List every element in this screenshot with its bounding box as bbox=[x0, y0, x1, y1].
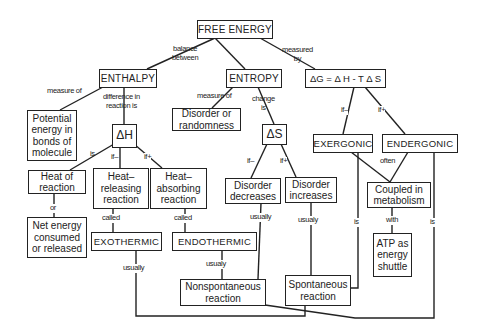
node-entropy: ENTROPY bbox=[226, 69, 282, 88]
label-change-is: change is bbox=[252, 95, 275, 112]
label-increases-usually: usualy bbox=[298, 216, 318, 225]
label-with: with bbox=[386, 216, 398, 225]
node-net-energy: Net energy consumed or released bbox=[27, 217, 87, 258]
node-disorder-decreases: Disorder decreases bbox=[225, 178, 281, 204]
node-delta-h: ΔH bbox=[112, 124, 137, 148]
label-dg-if-plus: if+ bbox=[378, 106, 385, 115]
label-called-exo: called bbox=[102, 214, 120, 223]
label-dh-if-minus: if– bbox=[111, 153, 118, 162]
label-endergonic-is: is bbox=[430, 218, 435, 227]
node-gibbs-equation: ΔG = Δ H - T Δ S bbox=[305, 69, 386, 88]
label-exergonic-is: is bbox=[354, 218, 359, 227]
label-balance-between: balance between bbox=[172, 45, 198, 62]
node-heat-releasing: Heat– releasing reaction bbox=[93, 168, 149, 209]
label-called-endo: called bbox=[174, 214, 192, 223]
label-measured-by: measured by bbox=[282, 46, 313, 63]
node-heat-of-reaction: Heat of reaction bbox=[28, 170, 86, 194]
node-exergonic: EXERGONIC bbox=[313, 134, 373, 153]
node-nonspontaneous: Nonspontaneous reaction bbox=[180, 279, 266, 306]
label-decreases-usually: usually bbox=[250, 213, 271, 222]
node-potential-energy: Potential energy in bonds of molecule bbox=[27, 110, 77, 161]
label-ds-if-minus: if– bbox=[247, 157, 254, 166]
label-enthalpy-measure-of: measure of bbox=[47, 87, 82, 96]
node-delta-s: ΔS bbox=[262, 124, 287, 145]
node-atp-shuttle: ATP as energy shuttle bbox=[373, 233, 412, 277]
node-heat-absorbing: Heat– absorbing reaction bbox=[150, 168, 207, 209]
node-free-energy: FREE ENERGY bbox=[197, 20, 273, 39]
label-or: or bbox=[50, 204, 56, 213]
label-dh-is: is bbox=[90, 150, 95, 159]
label-ds-if-plus: if+ bbox=[280, 157, 287, 166]
node-enthalpy: ENTHALPY bbox=[99, 69, 157, 88]
label-often: often bbox=[380, 157, 395, 166]
node-endergonic: ENDERGONIC bbox=[382, 134, 458, 153]
label-endo-usually: usualy bbox=[206, 260, 226, 269]
label-entropy-measure-of: measure of bbox=[197, 92, 232, 101]
node-exothermic: EXOTHERMIC bbox=[91, 232, 162, 251]
node-coupled-metabolism: Coupled in metabolism bbox=[367, 182, 431, 208]
node-spontaneous: Spontaneous reaction bbox=[285, 275, 351, 306]
node-disorder-randomness: Disorder or randomness bbox=[172, 108, 241, 131]
node-disorder-increases: Disorder increases bbox=[285, 177, 337, 203]
label-dg-if-minus: if– bbox=[341, 106, 348, 115]
label-difference-in-reaction: difference in reaction is bbox=[103, 93, 140, 110]
node-endothermic: ENDOTHERMIC bbox=[172, 232, 257, 251]
label-exo-usually: usually bbox=[123, 264, 144, 273]
label-dh-if-plus: if+ bbox=[144, 153, 151, 162]
